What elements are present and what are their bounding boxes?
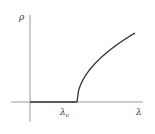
y-axis-label: ρ [18,12,25,22]
phase-transition-plot: ρ λ λc [0,0,155,134]
x-axis-label: λ [135,107,142,117]
order-parameter-curve [77,33,135,102]
critical-subscript: c [66,111,70,118]
critical-lambda: λ [59,107,66,117]
critical-point-label: λc [59,107,70,118]
